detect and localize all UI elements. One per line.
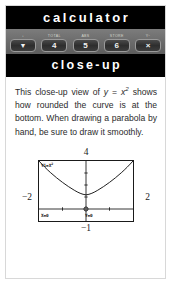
body-area: This close-up view of y = x2 shows how r… <box>6 77 165 278</box>
axis-label-left: −2 <box>22 193 32 203</box>
multiply-icon: × <box>135 39 161 52</box>
key-4-cap: 4 <box>41 39 67 52</box>
key-6[interactable]: STORE 6 <box>103 29 131 52</box>
header-block: calculator ↓ ▼ TOTAL 4 ABS 5 STORE 6 <box>6 6 165 77</box>
body-paragraph: This close-up view of y = x2 shows how r… <box>15 86 157 139</box>
parabola-plot <box>39 161 133 221</box>
axis-label-top: 4 <box>84 148 89 158</box>
calculator-screen: Y1=X2 X=0 Y=0 <box>38 160 134 222</box>
screen-x-readout: X=0 <box>41 214 49 218</box>
axis-label-right: 2 <box>145 193 150 203</box>
screen-equation-label: Y1=X2 <box>41 164 53 169</box>
multiply-key[interactable]: yˣ × <box>134 29 162 52</box>
calculator-keypad-strip: ↓ ▼ TOTAL 4 ABS 5 STORE 6 yˣ × <box>6 29 165 54</box>
page-subtitle: close-up <box>49 59 122 72</box>
paragraph-equals: = <box>108 87 121 97</box>
axis-label-bottom: −1 <box>81 224 91 234</box>
down-arrow-icon: ▼ <box>10 39 36 52</box>
screen-y-readout: Y=0 <box>85 214 93 218</box>
key-6-cap: 6 <box>104 39 130 52</box>
key-5-cap: 5 <box>73 39 99 52</box>
key-5[interactable]: ABS 5 <box>72 29 100 52</box>
screen-equation-exponent: 2 <box>51 162 53 166</box>
paragraph-text-1: This close-up view of <box>15 87 104 97</box>
page-title: calculator <box>40 11 130 24</box>
card-inner: calculator ↓ ▼ TOTAL 4 ABS 5 STORE 6 <box>5 5 166 279</box>
graph-figure: 4 −2 2 −1 <box>22 148 150 234</box>
key-4[interactable]: TOTAL 4 <box>40 29 68 52</box>
down-arrow-key[interactable]: ↓ ▼ <box>9 29 37 52</box>
subtitle-bar: close-up <box>6 54 165 77</box>
title-bar: calculator <box>6 6 165 29</box>
screen-equation-text: Y1=X <box>41 163 51 168</box>
calculator-close-up-card: calculator ↓ ▼ TOTAL 4 ABS 5 STORE 6 <box>0 0 171 284</box>
